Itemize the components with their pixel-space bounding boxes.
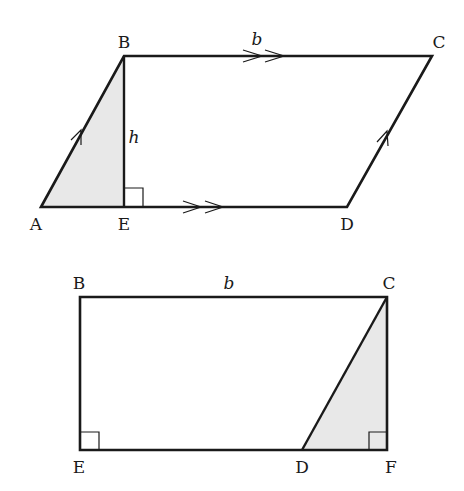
label-base-b: b: [252, 29, 263, 49]
label-d-vertex: D: [340, 214, 354, 234]
label-a-vertex: A: [29, 214, 43, 234]
label-base-b2: b: [224, 273, 235, 293]
label-c2-vertex: C: [382, 273, 395, 293]
label-b2-vertex: B: [73, 273, 86, 293]
label-c-vertex: C: [432, 32, 445, 52]
right-angle-marker-e: [124, 188, 143, 207]
label-b-vertex: B: [118, 32, 131, 52]
right-angle-marker-e2: [80, 432, 99, 450]
label-height-h: h: [129, 127, 140, 147]
label-e2-vertex: E: [73, 457, 85, 477]
label-e-vertex: E: [118, 214, 130, 234]
label-d2-vertex: D: [295, 457, 309, 477]
label-f-vertex: F: [385, 457, 397, 477]
diagram-canvas: B C A E D b h B b C E D F: [0, 0, 464, 491]
parallelogram-figure: B C A E D b h: [29, 29, 446, 234]
rectangle-figure: B b C E D F: [73, 273, 397, 477]
